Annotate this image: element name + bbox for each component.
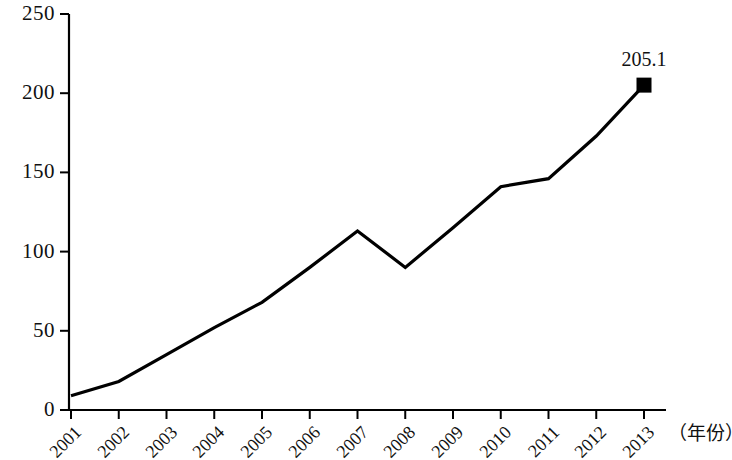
y-axis-tick-label: 0 [44,397,55,422]
line-chart: 050100150200250 200120022003200420052006… [0,0,732,460]
data-point-markers [637,78,652,93]
data-point-marker [637,78,652,93]
data-series-line [71,85,644,396]
x-axis-title: （年份） [668,418,732,445]
x-axis-ticks [71,410,644,419]
y-axis-tick-label: 200 [22,80,55,105]
y-axis-tick-label: 150 [22,159,55,184]
y-axis-tick-label: 100 [22,239,55,264]
y-axis-tick-label: 50 [33,318,55,343]
y-axis-tick-label: 250 [22,1,55,26]
y-axis-ticks [60,14,69,410]
data-point-label: 205.1 [612,48,676,71]
